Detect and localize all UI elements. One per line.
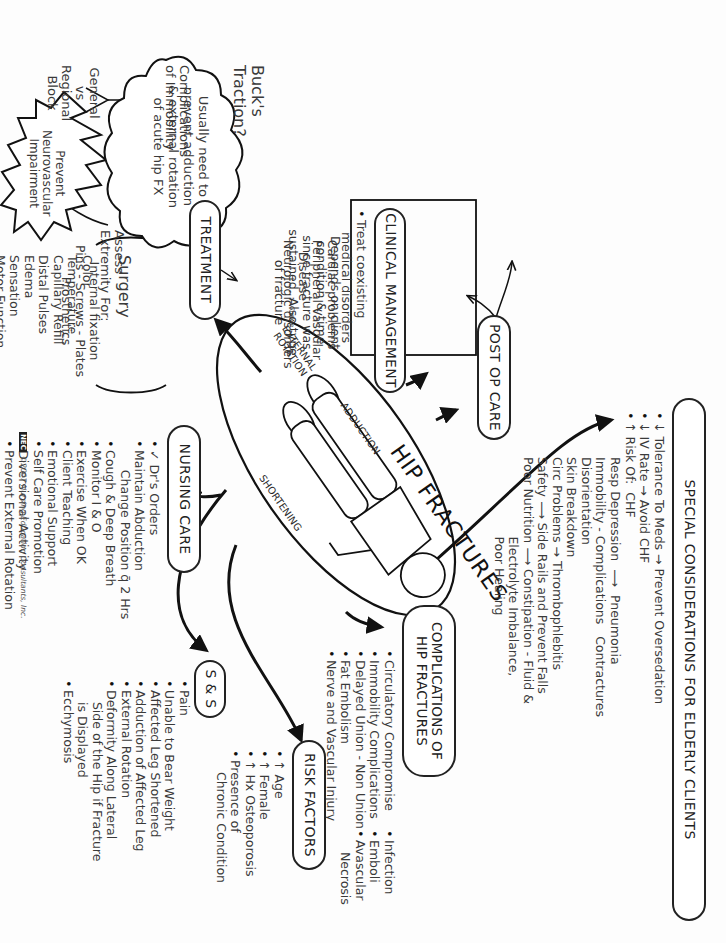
list-item: Skin Breakdown <box>564 447 579 717</box>
list-item: Ecchymosis <box>61 680 76 861</box>
list-item: ↑ Female <box>257 750 272 883</box>
list-item: External Rotation <box>119 680 134 861</box>
concept-map-canvas: HIP FRACTURES ADDUCTION EXTERNAL ROTATIO… <box>0 0 726 943</box>
post-op-care-heading: POST OP CARE <box>477 315 511 440</box>
list-item: ↑ Risk Of: CHF <box>623 412 638 704</box>
list-item: Fat Embolism <box>338 650 353 829</box>
list-item: ↓ IV Rate → Avoid CHF <box>637 412 652 704</box>
list-item: Circulatory Compromise <box>382 650 397 829</box>
list-item: Self Care Promotion <box>31 440 46 619</box>
list-item: Capillary Refill <box>51 245 66 348</box>
list-item: ↓ Tolerance To Meds → Prevent Oversedati… <box>652 412 667 704</box>
risk-factors-list: ↑ Age ↑ Female ↑ Hx Osteoporosis Presenc… <box>214 750 287 883</box>
list-item: Temperature <box>65 245 80 348</box>
assess-heading: Assess Extremity For: <box>98 230 126 322</box>
list-item: Delayed Union - Non Union <box>353 650 368 829</box>
list-item: Avascular Necrosis <box>338 830 367 905</box>
special-considerations-heading: SPECIAL CONSIDERATIONS FOR ELDERLY CLIEN… <box>672 398 706 921</box>
list-item: Immobility - Complications Contractures <box>593 447 608 717</box>
list-item: Exercise When OK <box>74 440 89 619</box>
risk-of-list: Resp Depression ⟶ Pneumonia Immobility -… <box>492 447 623 717</box>
list-item: Disorientation <box>579 447 594 717</box>
list-item: Motor Function <box>0 245 7 348</box>
list-item: Unable to Bear Weight <box>162 680 177 861</box>
list-item: Emboli <box>367 830 382 905</box>
bucks-traction: Buck's Traction? <box>230 65 266 137</box>
list-item: Poor Nutrition ⟶ Constipation - Fluid & <box>521 447 536 717</box>
risk-factors-heading: RISK FACTORS <box>292 740 326 870</box>
list-item: ✓ Dr's Orders <box>147 440 162 619</box>
list-item: ↑ Hx Osteoporosis <box>243 750 258 883</box>
anesthesia-options: General vs Regional Block <box>45 65 101 121</box>
copyright-text: ©2007 Nursing Education Consultants, Inc… <box>19 456 28 619</box>
list-item: Deformity Along Lateral Side of the Hip … <box>75 680 119 861</box>
assess-list: Color Temperature Capillary Refill Dista… <box>0 245 94 348</box>
clinical-management-list: Treat coexisting medical disorders Cardi… <box>281 210 368 368</box>
list-item: Circ Problems → Thrombophlebitis <box>550 447 565 717</box>
clinical-management-heading: CLINICAL MANAGEMENT <box>374 208 406 393</box>
list-item: Color <box>80 245 95 348</box>
treatment-heading: TREATMENT <box>189 200 221 320</box>
list-item: Safety ⟶ Side Rails and Prevent Falls <box>535 447 550 717</box>
list-item: Poor Healing <box>492 447 507 717</box>
list-item: Sensation <box>7 245 22 348</box>
list-item: Presence of Chronic Condition <box>214 750 243 883</box>
nursing-care-heading: NURSING CARE <box>167 425 201 573</box>
list-item: Resp Depression ⟶ Pneumonia <box>608 447 623 717</box>
list-item: Maintain Abduction Change Position q̄ 2 … <box>118 440 147 619</box>
complications-list-2: Infection Emboli Avascular Necrosis <box>338 830 396 905</box>
list-item: Edema <box>22 245 37 348</box>
complications-list-1: Circulatory Compromise Immobility Compli… <box>324 650 397 829</box>
list-item: Adduction of Affected Leg <box>133 680 148 861</box>
signs-symptoms-list: Pain Unable to Bear Weight Affected Leg … <box>61 680 192 861</box>
special-considerations-list: ↓ Tolerance To Meds → Prevent Oversedati… <box>623 412 667 704</box>
list-item: Treat coexisting medical disorders Cardi… <box>281 210 368 368</box>
list-item: Cough & Deep Breath <box>103 440 118 619</box>
list-item: Immobility Complications <box>367 650 382 829</box>
signs-symptoms-heading: S & S <box>194 660 226 718</box>
burst-text: Prevent Neurovascular Impairment <box>27 130 66 217</box>
list-item: Infection <box>382 830 397 905</box>
publisher-logo: NEC <box>19 432 27 452</box>
list-item: Electrolyte Imbalance, <box>506 447 521 717</box>
list-item: Client Teaching <box>60 440 75 619</box>
list-item: Distal Pulses <box>36 245 51 348</box>
list-item: ↑ Age <box>272 750 287 883</box>
list-item: Affected Leg Shortened <box>148 680 163 861</box>
complications-heading: COMPLICATIONS OF HIP FRACTURES <box>402 605 456 777</box>
list-item: Pain <box>177 680 192 861</box>
list-item: Monitor I & O <box>89 440 104 619</box>
cloud-text: Usually need to prevent adduction & exte… <box>151 85 211 208</box>
copyright-footer: NEC©2007 Nursing Education Consultants, … <box>19 432 28 619</box>
list-item: Prevent External Rotation <box>2 440 17 619</box>
list-item: Emotional Support <box>45 440 60 619</box>
